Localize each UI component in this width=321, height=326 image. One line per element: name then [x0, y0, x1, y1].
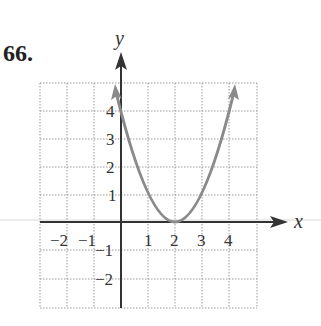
x-tick-label: −2	[50, 231, 68, 250]
y-tick-label: −2	[95, 270, 113, 289]
x-axis-label: x	[293, 210, 303, 232]
y-tick-label: 3	[106, 130, 115, 149]
x-tick-label: 4	[224, 231, 233, 250]
y-tick-label: 2	[106, 158, 115, 177]
y-axis-label: y	[113, 27, 124, 50]
x-tick-label: 3	[197, 231, 206, 250]
parabola-chart: x y −2 −1 1 2 3 4 4 3 2 1 −1 −2	[0, 0, 321, 326]
x-tick-label: 1	[144, 231, 153, 250]
axes	[40, 52, 288, 308]
x-tick-label: −1	[78, 231, 96, 250]
x-tick-label: 2	[170, 231, 179, 250]
y-tick-label: 4	[106, 102, 115, 121]
y-tick-label: 1	[108, 186, 117, 205]
y-tick-label: −1	[95, 241, 113, 260]
